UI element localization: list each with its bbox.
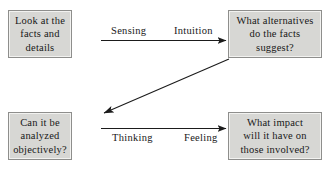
node-label: What alternatives do the facts suggest? [236,14,313,55]
edge-label-thinking: Thinking [112,132,153,144]
edge-label-sensing: Sensing [111,25,146,37]
edge-label-feeling: Feeling [184,132,218,144]
node-label: Can it be analyzed objectively? [13,116,67,157]
node-label: What impact will it have on those involv… [240,116,309,157]
edge-label-intuition: Intuition [174,25,213,37]
node-look-at-facts: Look at the facts and details [8,10,72,58]
node-label: Look at the facts and details [15,14,65,55]
node-can-it-be-analyzed: Can it be analyzed objectively? [8,112,72,160]
node-what-alternatives: What alternatives do the facts suggest? [228,10,322,58]
edge-diagonal-arrow [104,59,229,113]
node-what-impact: What impact will it have on those involv… [228,112,322,160]
flow-diagram: Look at the facts and details What alter… [0,0,330,173]
